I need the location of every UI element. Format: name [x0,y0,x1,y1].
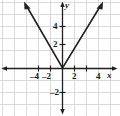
x-tick-label-neg4: –4 [30,72,39,81]
x-tick-label-pos2: 2 [72,72,77,81]
y-tick-label-neg2: –2 [50,88,59,97]
x-axis-arrow-right [112,66,118,70]
x-tick-label-pos4: 4 [96,72,101,81]
v-graph-curve [24,2,103,69]
y-axis [60,2,64,115]
y-axis-label: y [65,1,69,10]
y-tick-label-pos4: 4 [53,22,58,31]
y-tick-label-pos2: 2 [53,40,58,49]
coordinate-plane-svg [0,0,120,116]
horizontal-gridlines [0,3,120,105]
x-axis-label: x [107,71,112,80]
y-axis-arrow-down [60,109,64,115]
graph-figure: –4 –2 2 4 4 2 –2 y x [0,0,120,116]
x-tick-label-neg2: –2 [42,72,51,81]
